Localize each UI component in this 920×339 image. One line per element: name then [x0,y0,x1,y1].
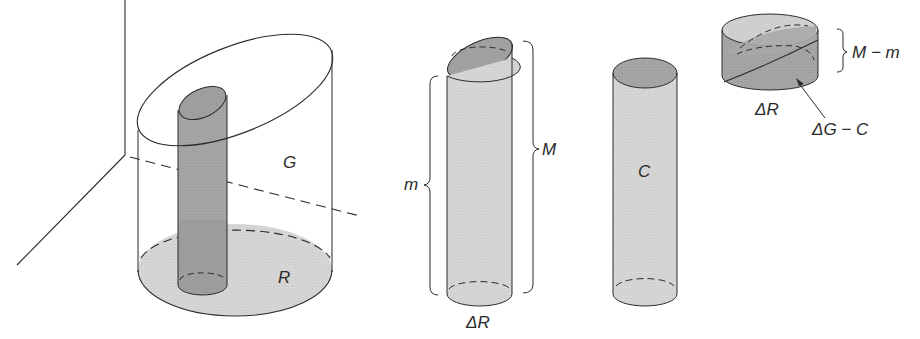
brace-M-minus-m [837,29,847,72]
base-disk-R [138,224,332,316]
y-axis-dashed [130,157,360,216]
cylinder-C: C [613,58,677,306]
diagram-canvas: G R m M ΔR C [0,0,920,339]
brace-M [523,41,539,293]
label-G: G [283,153,296,172]
inner-column [174,80,231,295]
label-m: m [404,175,418,194]
cylinder-C-top [613,58,677,88]
label-R: R [278,268,290,287]
brace-m [424,76,438,295]
top-surface-G [122,11,347,169]
label-M-minus-m: M − m [852,43,900,62]
x-axis [17,155,125,265]
label-M: M [542,140,557,159]
label-C: C [638,162,651,181]
wedge-piece: M − m ΔR ΔG − C [722,14,900,139]
label-delta-R-middle: ΔR [465,313,490,332]
label-delta-R-small: ΔR [754,100,779,119]
large-solid: G R [122,11,347,316]
column-over-delta-R: m M ΔR [404,29,557,332]
arrow-to-wedge [798,82,825,118]
label-delta-G-minus-C: ΔG − C [811,120,869,139]
